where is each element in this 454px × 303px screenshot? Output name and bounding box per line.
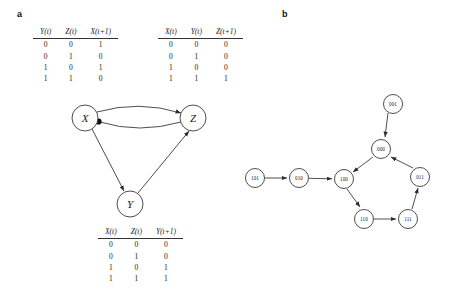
- table-cell: 0: [209, 50, 243, 61]
- table-row: 0 1 0: [158, 50, 243, 61]
- table-row: 0 0 0: [158, 39, 243, 51]
- state-node-010: 010: [290, 169, 309, 188]
- state-node-101: 101: [246, 169, 265, 188]
- state-transition-graph: 101 010 100 000 001 011 111 110: [240, 85, 454, 245]
- edge-001-to-000: [385, 113, 388, 137]
- table-cell: 0: [184, 39, 209, 51]
- edge-y-to-z: [138, 131, 189, 193]
- state-node-label: 110: [360, 216, 368, 222]
- table-row: 0 0 0: [98, 239, 183, 251]
- table-cell: 0: [58, 62, 83, 73]
- table-cell: 1: [149, 273, 183, 284]
- table-cell: 0: [33, 50, 58, 61]
- edge-x-to-z: [97, 106, 181, 113]
- panel-a-label: a: [17, 9, 22, 19]
- table-header-row: Y(t) Z(t) X(t+1): [33, 26, 118, 39]
- table-cell: 0: [124, 239, 149, 251]
- table-header-row: X(t) Y(t) Z(t+1): [158, 26, 243, 39]
- table-cell: 0: [158, 39, 184, 51]
- table-row: 1 1 1: [158, 73, 243, 84]
- state-node-label: 011: [416, 174, 424, 180]
- table-row: 0 0 1: [33, 39, 118, 51]
- column-header: X(t): [158, 26, 184, 39]
- table-cell: 0: [184, 62, 209, 73]
- table-cell: 0: [158, 50, 184, 61]
- state-node-110: 110: [355, 210, 374, 229]
- column-header: Y(t): [184, 26, 209, 39]
- edge-100-to-110: [347, 189, 360, 207]
- truth-table-y: X(t) Z(t) Y(t+1) 0 0 0 0 1 0 1 0 1 1 1 1: [98, 226, 183, 285]
- table-cell: 0: [84, 73, 118, 84]
- table-cell: 1: [58, 73, 83, 84]
- table-cell: 1: [84, 62, 118, 73]
- state-node-000: 000: [372, 140, 391, 159]
- edge-011-to-000: [391, 157, 413, 168]
- panel-b-label: b: [282, 9, 288, 19]
- table-cell: 0: [33, 39, 58, 51]
- truth-table-x: Y(t) Z(t) X(t+1) 0 0 1 0 1 0 1 0 1 1 1 0: [33, 26, 118, 85]
- column-header: Z(t+1): [209, 26, 243, 39]
- edge-010-to-100: [309, 178, 332, 179]
- edge-z-to-x: [100, 122, 181, 128]
- column-header: X(t+1): [84, 26, 118, 39]
- edge-x-to-y: [92, 129, 124, 191]
- state-node-001: 001: [384, 95, 403, 114]
- state-node-100: 100: [335, 170, 354, 189]
- table-row: 1 1 1: [98, 273, 183, 284]
- wiring-node-x: X: [72, 105, 98, 131]
- table-cell: 1: [84, 39, 118, 51]
- state-node-label: 100: [340, 176, 348, 182]
- wiring-node-label: X: [81, 112, 90, 124]
- state-node-label: 001: [389, 101, 397, 107]
- table-row: 1 1 0: [33, 73, 118, 84]
- table-cell: 0: [209, 62, 243, 73]
- column-header: Y(t): [33, 26, 58, 39]
- state-node-111: 111: [399, 210, 418, 229]
- table-cell: 1: [33, 62, 58, 73]
- edge-000-to-100: [353, 157, 373, 172]
- table-cell: 0: [124, 262, 149, 273]
- wiring-node-z: Z: [180, 105, 206, 131]
- column-header: Z(t): [58, 26, 83, 39]
- table-cell: 1: [33, 73, 58, 84]
- table-row: 1 0 0: [158, 62, 243, 73]
- wiring-node-label: Z: [190, 112, 197, 124]
- table-cell: 0: [209, 39, 243, 51]
- table-cell: 1: [98, 262, 124, 273]
- state-node-label: 000: [377, 146, 385, 152]
- wiring-diagram: X Z Y: [30, 95, 230, 230]
- table-cell: 1: [98, 273, 124, 284]
- table-cell: 0: [149, 250, 183, 261]
- table-cell: 1: [58, 50, 83, 61]
- table-cell: 1: [158, 62, 184, 73]
- table-cell: 1: [184, 50, 209, 61]
- table-cell: 0: [98, 239, 124, 251]
- table-cell: 1: [184, 73, 209, 84]
- table-cell: 0: [58, 39, 83, 51]
- table-row: 0 1 0: [98, 250, 183, 261]
- table-cell: 1: [124, 273, 149, 284]
- table-cell: 0: [149, 239, 183, 251]
- table-cell: 1: [158, 73, 184, 84]
- table-row: 0 1 0: [33, 50, 118, 61]
- table-cell: 0: [84, 50, 118, 61]
- table-row: 1 0 1: [98, 262, 183, 273]
- table-cell: 1: [209, 73, 243, 84]
- edge-111-to-011: [412, 188, 418, 209]
- wiring-node-y: Y: [117, 191, 143, 217]
- table-cell: 0: [98, 250, 124, 261]
- table-cell: 1: [124, 250, 149, 261]
- table-row: 1 0 1: [33, 62, 118, 73]
- truth-table-z: X(t) Y(t) Z(t+1) 0 0 0 0 1 0 1 0 0 1 1 1: [158, 26, 243, 85]
- table-cell: 1: [149, 262, 183, 273]
- state-node-label: 101: [251, 175, 259, 181]
- state-node-label: 010: [295, 175, 303, 181]
- state-node-label: 111: [404, 216, 412, 222]
- state-node-011: 011: [411, 168, 430, 187]
